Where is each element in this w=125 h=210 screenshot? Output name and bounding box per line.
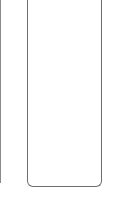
viewport [0,0,125,210]
adjacent-panel-edge [0,0,1,183]
empty-panel [27,0,102,187]
